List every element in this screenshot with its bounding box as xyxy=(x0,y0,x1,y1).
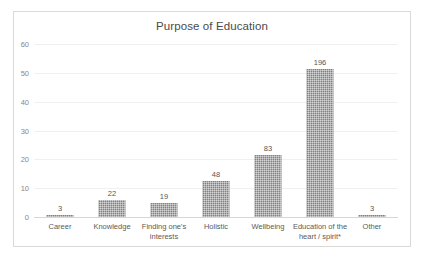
bar-value-label: 19 xyxy=(160,192,168,201)
bar-value-label: 83 xyxy=(264,144,272,153)
bar-value-label: 3 xyxy=(58,204,62,213)
bar-group: 48Holistic xyxy=(190,44,242,217)
bar[interactable] xyxy=(151,203,178,217)
bar-value-label: 3 xyxy=(370,204,374,213)
bar[interactable] xyxy=(255,155,282,217)
bar-group: 3Career xyxy=(34,44,86,217)
bar[interactable] xyxy=(307,69,334,217)
x-axis-line xyxy=(34,217,398,218)
bar[interactable] xyxy=(47,215,74,217)
y-axis-tick-label: 50 xyxy=(21,68,29,77)
y-axis-tick-label: 10 xyxy=(21,184,29,193)
chart-container: Purpose of Education 0102030405060 3Care… xyxy=(13,11,411,247)
bar-group: 196Education of the heart / spirit* xyxy=(294,44,346,217)
bar[interactable] xyxy=(203,181,230,217)
y-axis-tick-label: 60 xyxy=(21,40,29,49)
bar[interactable] xyxy=(99,200,126,217)
bar-group: 19Finding one's interests xyxy=(138,44,190,217)
y-axis-tick-label: 0 xyxy=(25,213,29,222)
y-axis-tick-label: 40 xyxy=(21,97,29,106)
plot-area: 0102030405060 3Career22Knowledge19Findin… xyxy=(34,44,398,217)
y-axis-tick-label: 30 xyxy=(21,126,29,135)
bar-value-label: 196 xyxy=(314,58,327,67)
bar-value-label: 48 xyxy=(212,170,220,179)
bar-value-label: 22 xyxy=(108,189,116,198)
bar-series: 3Career22Knowledge19Finding one's intere… xyxy=(34,44,398,217)
x-axis-category-label: Other xyxy=(341,222,403,232)
bar-group: 3Other xyxy=(346,44,398,217)
bar-group: 83Wellbeing xyxy=(242,44,294,217)
chart-title: Purpose of Education xyxy=(14,20,410,32)
bar[interactable] xyxy=(359,215,386,217)
y-axis-tick-label: 20 xyxy=(21,155,29,164)
bar-group: 22Knowledge xyxy=(86,44,138,217)
